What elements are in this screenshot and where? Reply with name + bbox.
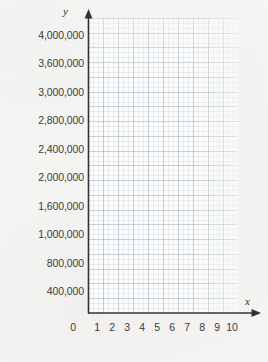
y-axis-tick-label: 2,400,000 (6, 143, 84, 155)
grid-fade-overlay (88, 18, 238, 313)
x-axis-arrowhead (252, 309, 262, 317)
y-axis-tick-label: 4,000,000 (6, 29, 84, 41)
y-axis-tick-label: 2,000,000 (6, 171, 84, 183)
graph-paper-figure: y x 4,000,0003,600,0003,000,0002,800,000… (0, 0, 268, 362)
y-axis-tick-label: 800,000 (6, 257, 84, 269)
x-axis-tick-label: 0 (64, 321, 82, 333)
y-axis-tick-label: 400,000 (6, 285, 84, 297)
y-axis-name-label: y (63, 5, 68, 17)
y-axis-tick-label: 2,800,000 (6, 114, 84, 126)
x-axis-name-label: x (245, 295, 250, 307)
y-axis-tick-label: 3,600,000 (6, 57, 84, 69)
y-axis-tick-label: 3,000,000 (6, 86, 84, 98)
y-axis-tick-label: 1,600,000 (6, 200, 84, 212)
plot-grid (88, 18, 238, 313)
y-axis-tick-label: 1,000,000 (6, 228, 84, 240)
x-axis-tick-label: 10 (223, 321, 241, 333)
